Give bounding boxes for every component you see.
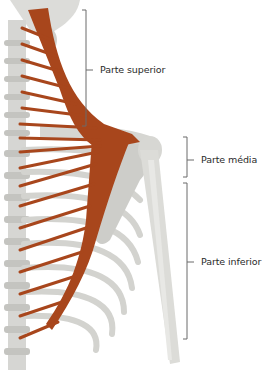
- humerus: [138, 136, 180, 364]
- label-middle-part: Parte média: [201, 154, 257, 165]
- bracket-middle: [183, 137, 194, 177]
- anatomy-illustration: [0, 0, 264, 371]
- label-lower-part: Parte inferior: [201, 256, 261, 267]
- bracket-lower: [183, 183, 194, 339]
- label-upper-part: Parte superior: [100, 64, 165, 75]
